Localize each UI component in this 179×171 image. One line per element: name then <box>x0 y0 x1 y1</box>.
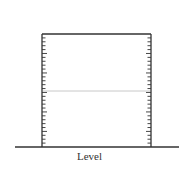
container-diagram <box>0 0 179 171</box>
level-label: Level <box>0 150 179 162</box>
